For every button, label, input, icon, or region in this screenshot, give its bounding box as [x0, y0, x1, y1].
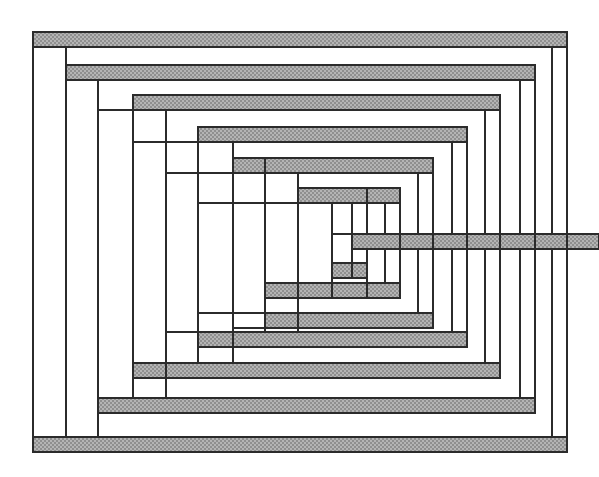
band-bottom-2: [133, 363, 500, 378]
corridor-left-5: [198, 203, 233, 313]
band-bottom-1: [98, 398, 535, 413]
corridor-left-6: [233, 173, 265, 313]
corridor-left-3: [133, 142, 166, 363]
band-top-1: [66, 65, 535, 80]
band-top-0: [33, 32, 567, 47]
band-top-4: [233, 158, 433, 173]
corridor-inner-vertical-b: [332, 203, 352, 234]
rectangular-spiral-diagram: [0, 0, 599, 477]
band-top-2: [133, 95, 500, 110]
band-top-3: [198, 127, 467, 142]
figure-canvas: [0, 0, 599, 477]
corridor-left-1: [66, 80, 98, 437]
band-bottom-0: [33, 437, 567, 452]
corridor-inner-vertical-a: [265, 203, 298, 283]
corridor-left-2: [98, 110, 133, 398]
band-bottom-3: [198, 332, 467, 347]
band-exit-right: [352, 234, 599, 249]
corridor-left-4: [166, 173, 198, 332]
band-inner-bottom: [332, 263, 367, 278]
corridor-inner-core: [352, 249, 367, 263]
corridor-left-0: [33, 47, 66, 452]
band-top-5: [298, 188, 400, 203]
band-bottom-4: [265, 313, 433, 328]
